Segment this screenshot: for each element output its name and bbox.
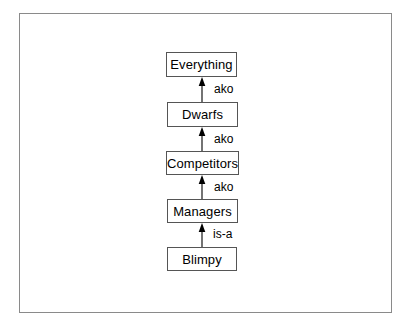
arrow-up-icon — [197, 175, 207, 199]
edge-managers-to-competitors — [197, 175, 207, 199]
node-competitors[interactable]: Competitors — [166, 151, 239, 175]
diagram-canvas: is-a ako ako ako Everything Dwarfs Compe… — [0, 0, 410, 330]
arrow-up-icon — [197, 127, 207, 151]
edge-blimpy-to-managers — [197, 223, 207, 247]
edge-label-ako-managers-competitors: ako — [214, 181, 233, 193]
node-dwarfs[interactable]: Dwarfs — [167, 102, 238, 127]
arrow-up-icon — [197, 77, 207, 102]
node-blimpy[interactable]: Blimpy — [167, 247, 237, 271]
edge-competitors-to-dwarfs — [197, 127, 207, 151]
node-managers[interactable]: Managers — [167, 199, 238, 223]
arrow-up-icon — [197, 223, 207, 247]
edge-dwarfs-to-everything — [197, 77, 207, 102]
edge-label-is-a: is-a — [213, 228, 232, 240]
node-everything[interactable]: Everything — [166, 52, 237, 77]
edge-label-ako-dwarfs-everything: ako — [214, 83, 233, 95]
edge-label-ako-competitors-dwarfs: ako — [214, 133, 233, 145]
